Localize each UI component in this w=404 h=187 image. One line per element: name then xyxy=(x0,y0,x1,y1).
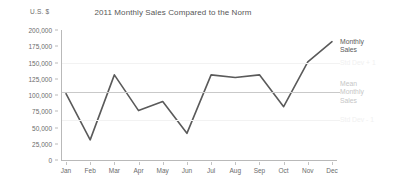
x-axis-tick-label: Oct xyxy=(279,167,289,174)
reference-line-stub xyxy=(330,120,340,121)
x-axis-tick-label: Feb xyxy=(85,167,96,174)
y-axis-tick-label: 25,000 xyxy=(32,140,52,147)
x-axis-tick-label: Mar xyxy=(109,167,120,174)
y-axis-tick-mark xyxy=(55,95,58,96)
y-axis-tick-label: 150,000 xyxy=(29,59,53,66)
y-axis-tick-mark xyxy=(55,30,58,31)
x-axis-tick-label: Nov xyxy=(302,167,314,174)
y-axis-tick-mark xyxy=(55,46,58,47)
y-axis-tick-label: 75,000 xyxy=(32,108,52,115)
reference-line xyxy=(62,63,336,64)
legend-monthly-sales: Monthly Sales xyxy=(340,38,364,55)
reference-line-label-line: Mean xyxy=(340,80,364,89)
x-axis-tick-mark xyxy=(259,162,260,165)
reference-line-stub xyxy=(330,92,340,93)
x-axis-tick-mark xyxy=(308,162,309,165)
x-axis-tick-label: Sep xyxy=(254,167,266,174)
x-axis-tick-label: Jan xyxy=(61,167,71,174)
y-axis-tick-mark xyxy=(55,62,58,63)
x-axis-tick-label: Jun xyxy=(182,167,192,174)
plot-area xyxy=(62,30,336,160)
chart-title: 2011 Monthly Sales Compared to the Norm xyxy=(0,8,404,17)
y-axis-tick-label: 0 xyxy=(48,157,52,164)
x-axis-tick-mark xyxy=(66,162,67,165)
x-axis-tick-mark xyxy=(114,162,115,165)
x-axis-tick-label: Aug xyxy=(229,167,241,174)
reference-line-label: Std Dev - 1 xyxy=(340,116,374,125)
reference-line-label-line: Std Dev + 1 xyxy=(340,59,376,68)
reference-line xyxy=(62,92,336,93)
x-axis-tick-mark xyxy=(332,162,333,165)
chart-container: U.S. $ 2011 Monthly Sales Compared to th… xyxy=(0,0,404,187)
x-axis-line xyxy=(61,160,337,161)
x-axis-tick-label: Apr xyxy=(133,167,143,174)
x-axis-tick-label: Dec xyxy=(326,167,338,174)
reference-line-label-line: Std Dev - 1 xyxy=(340,116,374,125)
reference-line-label: MeanMonthlySales xyxy=(340,80,364,106)
x-axis-tick-mark xyxy=(235,162,236,165)
y-axis-tick-labels: 200,000175,000150,000125,000100,00075,00… xyxy=(0,24,58,166)
y-axis-tick-label: 50,000 xyxy=(32,124,52,131)
y-axis-tick-mark xyxy=(55,160,58,161)
monthly-sales-line xyxy=(62,30,336,160)
x-axis-tick-mark xyxy=(211,162,212,165)
reference-line-label-line: Monthly xyxy=(340,88,364,97)
x-axis-tick-mark xyxy=(187,162,188,165)
y-axis-tick-mark xyxy=(55,143,58,144)
x-axis-tick-label: May xyxy=(157,167,169,174)
x-axis-tick-mark xyxy=(139,162,140,165)
y-axis-tick-label: 100,000 xyxy=(29,92,53,99)
x-axis-tick-labels: JanFebMarAprMayJunJulAugSepOctNovDec xyxy=(62,162,336,184)
reference-line-label-line: Sales xyxy=(340,97,364,106)
y-axis-tick-mark xyxy=(55,111,58,112)
reference-line-label: Std Dev + 1 xyxy=(340,59,376,68)
y-axis-tick-label: 200,000 xyxy=(29,27,53,34)
x-axis-tick-mark xyxy=(163,162,164,165)
y-axis-tick-label: 175,000 xyxy=(29,43,53,50)
legend-monthly-sales-line1: Monthly xyxy=(340,38,364,47)
y-axis-tick-mark xyxy=(55,78,58,79)
reference-line xyxy=(62,120,336,121)
legend-monthly-sales-line2: Sales xyxy=(340,46,364,55)
x-axis-tick-label: Jul xyxy=(207,167,215,174)
x-axis-tick-mark xyxy=(284,162,285,165)
x-axis-tick-mark xyxy=(90,162,91,165)
y-axis-tick-mark xyxy=(55,127,58,128)
reference-line-stub xyxy=(330,63,340,64)
y-axis-tick-label: 125,000 xyxy=(29,75,53,82)
